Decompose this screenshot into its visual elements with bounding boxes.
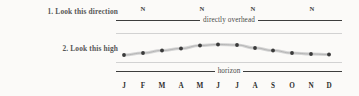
month-label-december: D (326, 82, 331, 90)
data-point-october (290, 51, 294, 55)
rule-segment-left (116, 71, 215, 72)
data-point-january (122, 53, 126, 57)
horizon-label: horizon (218, 68, 241, 75)
data-point-april (179, 47, 183, 51)
month-label-november: N (308, 82, 313, 90)
horizon-rule: horizon (116, 68, 342, 75)
month-label-january: J (122, 82, 126, 90)
data-point-december (327, 53, 331, 57)
month-label-may: M (197, 82, 204, 90)
month-label-august: A (252, 82, 257, 90)
data-point-november (309, 52, 313, 56)
data-point-march (160, 49, 164, 53)
month-label-october: O (289, 82, 295, 90)
data-point-july (235, 43, 239, 47)
month-label-march: M (159, 82, 166, 90)
month-label-july: J (235, 82, 239, 90)
data-point-august (253, 46, 257, 50)
month-label-february: F (141, 82, 145, 90)
data-point-may (198, 44, 202, 48)
month-label-september: S (271, 82, 275, 90)
month-label-april: A (178, 82, 183, 90)
month-label-june: J (216, 82, 220, 90)
data-point-february (141, 51, 145, 55)
instruction-step-1: 1. Look this direction (47, 7, 118, 16)
plot-area: NNNN directly overhead horizon JFMAMJJAS… (116, 0, 342, 96)
rule-segment-right (243, 71, 342, 72)
instruction-step-2: 2. Look this high (62, 44, 118, 53)
data-point-june (216, 43, 220, 47)
data-point-september (271, 49, 275, 53)
sun-position-diagram: 1. Look this direction 2. Look this high… (0, 0, 359, 96)
